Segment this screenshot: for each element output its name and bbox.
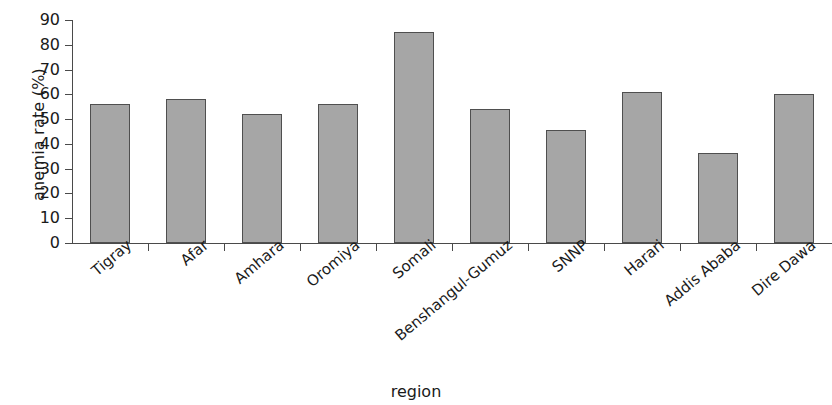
bar — [774, 94, 814, 243]
bar — [394, 32, 434, 243]
bar — [166, 99, 206, 243]
y-axis-tick-label: 20 — [40, 183, 60, 202]
x-axis-tick — [528, 243, 529, 251]
x-axis-tick — [300, 243, 301, 251]
x-axis-title: region — [0, 382, 832, 401]
y-axis-tick: 80 — [65, 45, 72, 46]
bar — [242, 114, 282, 243]
x-axis-tick — [452, 243, 453, 251]
y-axis-tick-label: 40 — [40, 134, 60, 153]
x-axis-tick — [756, 243, 757, 251]
y-axis-tick: 30 — [65, 169, 72, 170]
x-axis-tick-label: Oromiya — [303, 236, 363, 291]
y-axis-tick: 50 — [65, 119, 72, 120]
x-axis-tick — [148, 243, 149, 251]
y-axis-tick: 70 — [65, 70, 72, 71]
bar — [90, 104, 130, 243]
y-axis-tick-label: 60 — [40, 84, 60, 103]
bar — [622, 92, 662, 243]
y-axis-tick-label: 10 — [40, 208, 60, 227]
y-axis-tick: 20 — [65, 193, 72, 194]
bar — [318, 104, 358, 243]
bar — [470, 109, 510, 243]
y-axis-tick: 0 — [65, 243, 72, 244]
y-axis-tick: 60 — [65, 94, 72, 95]
y-axis-tick-label: 70 — [40, 60, 60, 79]
x-axis-tick-label: Addis Ababa — [660, 236, 743, 310]
plot-area: 0102030405060708090 — [72, 20, 832, 243]
bar — [698, 153, 738, 243]
x-axis-tick — [376, 243, 377, 251]
y-axis-tick: 10 — [65, 218, 72, 219]
x-axis-tick — [224, 243, 225, 251]
y-axis-tick-label: 90 — [40, 10, 60, 29]
y-axis-tick: 40 — [65, 144, 72, 145]
x-axis-tick — [680, 243, 681, 251]
y-axis-tick-label: 0 — [50, 233, 60, 252]
bar — [546, 130, 586, 243]
y-axis-tick: 90 — [65, 20, 72, 21]
y-axis-tick-label: 50 — [40, 109, 60, 128]
y-axis-tick-label: 30 — [40, 159, 60, 178]
x-axis-tick-label: Dire Dawa — [748, 236, 819, 300]
bar-chart-figure: anemia rate (%) 0102030405060708090 regi… — [0, 0, 832, 405]
x-axis-tick — [604, 243, 605, 251]
y-axis-tick-label: 80 — [40, 35, 60, 54]
y-axis-line — [72, 20, 73, 243]
